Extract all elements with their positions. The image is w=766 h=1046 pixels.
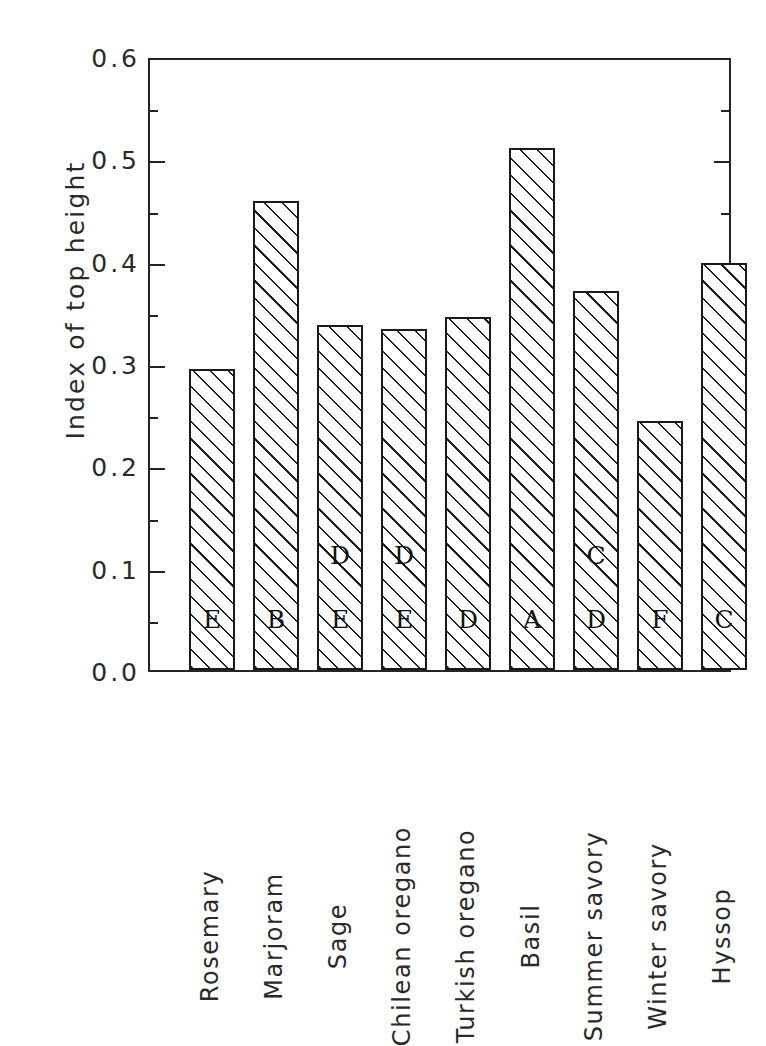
bar-group-letter: D <box>447 607 489 632</box>
bar: D <box>445 317 491 670</box>
y-axis-tick-labels: 0.60.50.40.30.20.10.0 <box>52 0 140 964</box>
x-axis-label: Winter savory <box>635 684 681 950</box>
x-axis-label-text: Turkish oregano <box>452 829 480 1044</box>
bar-group-letter: B <box>255 607 297 632</box>
x-axis-label-text: Winter savory <box>644 842 672 1030</box>
bar: F <box>637 421 683 670</box>
x-axis-label: Rosemary <box>187 684 233 950</box>
bar-group-letter: A <box>511 607 553 632</box>
x-axis-label-text: Rosemary <box>196 870 224 1003</box>
bar-group-letter-secondary: D <box>383 543 425 568</box>
x-axis-label: Sage <box>315 684 361 950</box>
bar-series: EBEDEDDADCFC <box>150 60 729 670</box>
x-axis-category-labels: RosemaryMarjoramSageChilean oreganoTurki… <box>148 684 731 954</box>
x-axis-label-text: Basil <box>516 903 544 968</box>
x-axis-label: Chilean oregano <box>379 684 425 950</box>
bar-group-letter: D <box>575 607 617 632</box>
y-tick-label: 0.0 <box>50 658 140 687</box>
x-axis-label-text: Hyssop <box>708 888 736 985</box>
x-axis-label-text: Sage <box>324 903 352 969</box>
bar-group-letter: C <box>703 607 745 632</box>
bar-group-letter: E <box>383 607 425 632</box>
x-axis-label-text: Chilean oregano <box>388 826 416 1046</box>
bar: E <box>189 369 235 670</box>
y-tick-label: 0.4 <box>50 249 140 278</box>
x-axis-label: Hyssop <box>699 684 745 950</box>
y-tick-label: 0.1 <box>50 556 140 585</box>
bar-group-letter: F <box>639 607 681 632</box>
bar-group-letter-secondary: D <box>319 543 361 568</box>
x-axis-label: Turkish oregano <box>443 684 489 950</box>
x-axis-label: Basil <box>507 684 553 950</box>
y-tick-label: 0.6 <box>50 44 140 73</box>
bar: DC <box>573 291 619 670</box>
x-axis-label: Summer savory <box>571 684 617 950</box>
bar-group-letter: E <box>191 607 233 632</box>
bar: C <box>701 263 747 670</box>
x-axis-label-text: Summer savory <box>580 831 608 1041</box>
x-axis-label-text: Marjoram <box>260 872 288 999</box>
y-tick-label: 0.3 <box>50 351 140 380</box>
bar-group-letter-secondary: C <box>575 543 617 568</box>
x-axis-label: Marjoram <box>251 684 297 950</box>
bar-group-letter: E <box>319 607 361 632</box>
y-tick-label: 0.5 <box>50 146 140 175</box>
plot-area: EBEDEDDADCFC <box>148 58 731 672</box>
bar: B <box>253 201 299 670</box>
bar: ED <box>317 325 363 670</box>
bar: A <box>509 148 555 670</box>
bar: ED <box>381 329 427 670</box>
y-tick-label: 0.2 <box>50 453 140 482</box>
